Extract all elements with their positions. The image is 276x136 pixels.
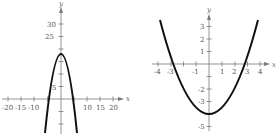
- left-x-tick-labels: -20 -15 -10 10 15 20: [2, 104, 118, 112]
- left-x-label-20: 20: [109, 104, 118, 112]
- right-y-label-3: 3: [200, 23, 204, 31]
- right-y-axis-label: y: [206, 6, 212, 14]
- right-y-label-2: 2: [200, 36, 204, 44]
- right-x-axis-label: x: [272, 61, 276, 69]
- left-y-label-25: 25: [45, 33, 54, 41]
- right-x-label-2: 2: [232, 68, 236, 76]
- left-x-label-15: 15: [96, 104, 105, 112]
- left-y-label-5: 5: [52, 84, 56, 92]
- left-x-label-10: 10: [83, 104, 92, 112]
- right-y-label-1: 1: [200, 48, 204, 56]
- right-x-axis-arrow-icon: [264, 62, 270, 66]
- right-x-label-4: 4: [258, 68, 263, 76]
- left-x-axis-arrow-icon: [118, 97, 124, 101]
- left-x-label--10: -10: [28, 104, 39, 112]
- right-y-tick-labels: 3 2 1 -2 -3 -5: [198, 23, 205, 131]
- right-y-label--2: -2: [198, 86, 205, 94]
- left-x-axis-label: x: [126, 95, 130, 103]
- left-x-label--20: -20: [2, 104, 13, 112]
- right-y-label--5: -5: [198, 123, 205, 131]
- right-x-label--1: -1: [192, 68, 199, 76]
- figure: x y -20 -15 -10 10: [0, 0, 276, 136]
- left-y-axis-label: y: [58, 0, 64, 8]
- right-x-label--3: -3: [167, 68, 174, 76]
- right-x-label-3: 3: [245, 68, 249, 76]
- right-x-label-1: 1: [220, 68, 224, 76]
- right-x-tick-labels: -4 -3 -1 1 2 3 4: [154, 68, 263, 76]
- right-y-label--3: -3: [198, 98, 205, 106]
- right-graph: x y -4 -3 -1 1 2: [152, 6, 276, 131]
- left-y-label-30: 30: [47, 21, 56, 29]
- left-x-label--15: -15: [15, 104, 26, 112]
- right-x-label--4: -4: [154, 68, 161, 76]
- left-graph: x y -20 -15 -10 10: [2, 0, 130, 134]
- right-y-axis-arrow-icon: [207, 14, 211, 20]
